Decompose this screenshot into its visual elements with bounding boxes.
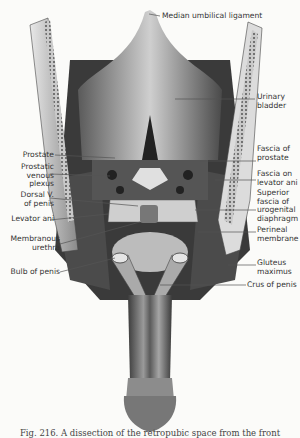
label-prostatic-venous-plexus: Prostatic venous plexus bbox=[21, 163, 54, 189]
label-crus-of-penis: Crus of penis bbox=[247, 281, 297, 290]
label-urinary-bladder: Urinary bladder bbox=[257, 93, 286, 110]
label-gluteus-maximus: Gluteus maximus bbox=[257, 259, 292, 276]
label-membranous-urethra: Membranous urethra bbox=[11, 235, 60, 252]
label-perineal-membrane: Perineal membrane bbox=[257, 226, 299, 243]
label-median-umbilical-ligament: Median umbilical ligament bbox=[162, 12, 262, 21]
figure-caption: Fig. 216. A dissection of the retropubic… bbox=[0, 428, 300, 438]
label-superior-fascia-urogenital-diaphragm: Superior fascia of urogenital diaphragm bbox=[257, 189, 298, 223]
anatomical-figure: Median umbilical ligament Prostate Prost… bbox=[0, 0, 300, 438]
label-levator-ani: Levator ani bbox=[11, 215, 54, 224]
label-dorsal-v-of-penis: Dorsal V. of penis bbox=[21, 191, 54, 208]
label-prostate: Prostate bbox=[23, 151, 54, 160]
label-bulb-of-penis: Bulb of penis bbox=[11, 268, 60, 277]
label-fascia-on-levator-ani: Fascia on levator ani bbox=[257, 170, 298, 187]
label-fascia-of-prostate: Fascia of prostate bbox=[257, 145, 290, 162]
